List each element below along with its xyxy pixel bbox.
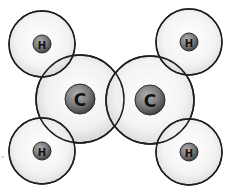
atom-h1: H [33, 35, 51, 53]
molecule-svg: H H C C H H [0, 0, 227, 192]
ethene-diagram: H H C C H H [0, 0, 227, 192]
atom-h4: H [180, 143, 198, 161]
atom-label-c2: C [144, 91, 156, 111]
atom-c2: C [135, 85, 165, 115]
atom-label-h1: H [38, 40, 46, 51]
atom-label-h4: H [185, 148, 193, 159]
atom-c1: C [65, 84, 95, 114]
atom-h2: H [180, 33, 198, 51]
atom-label-c1: C [74, 90, 86, 110]
atom-label-h3: H [38, 147, 46, 158]
atom-h3: H [33, 142, 51, 160]
atom-label-h2: H [185, 38, 193, 49]
